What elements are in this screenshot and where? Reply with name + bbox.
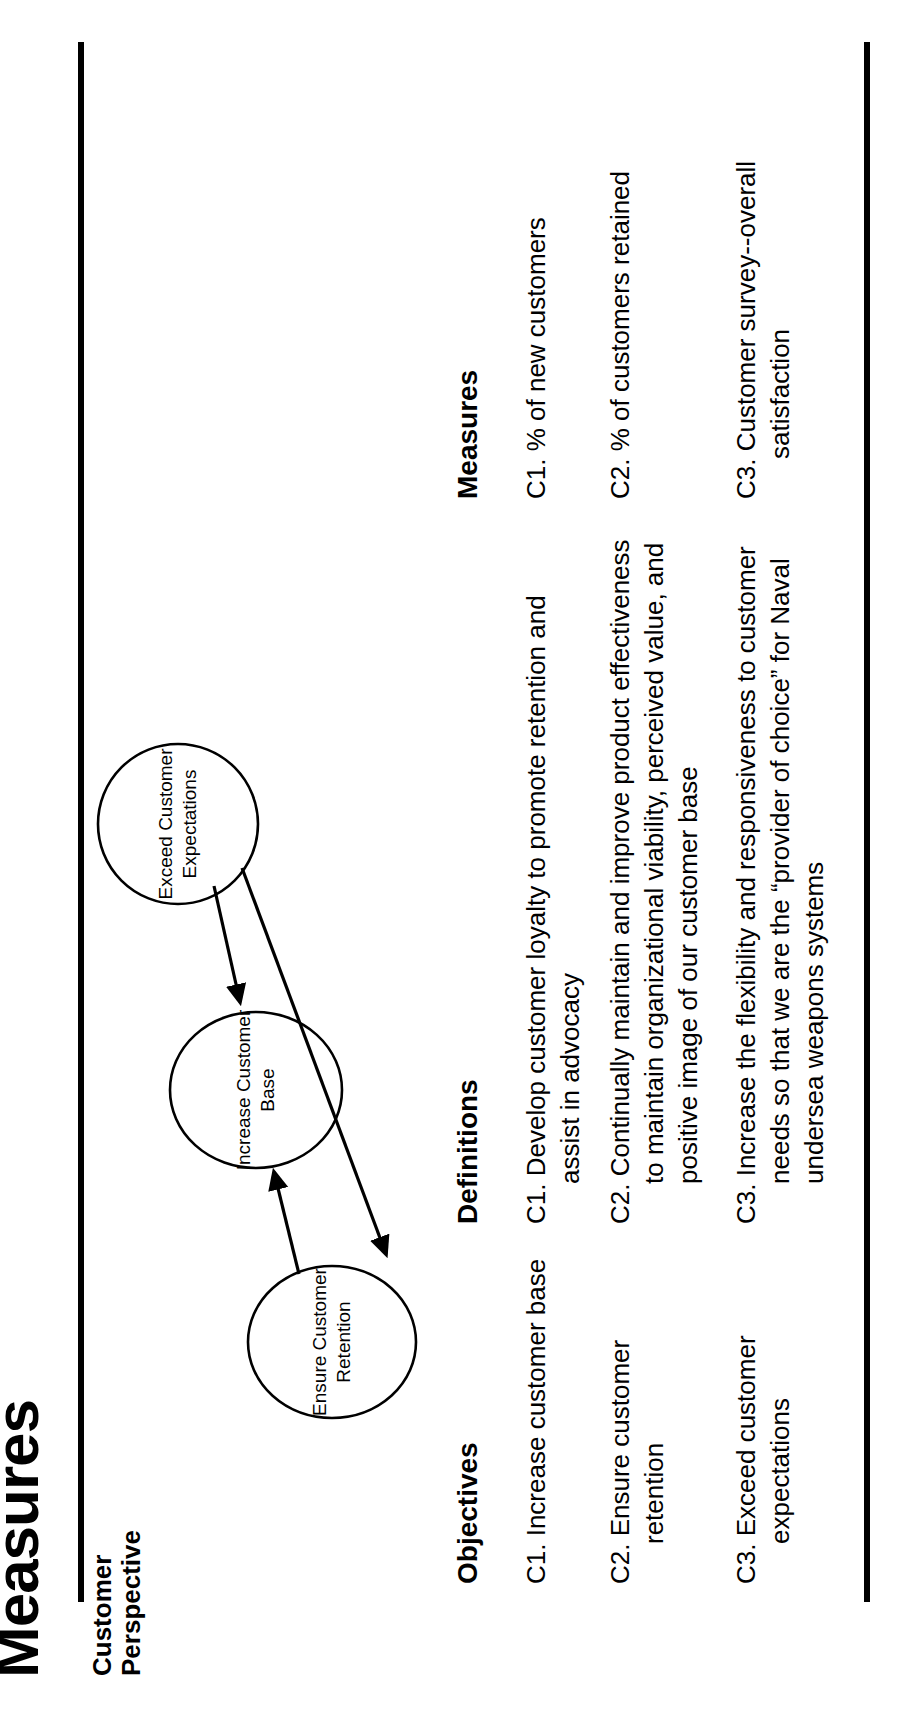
diagram-arrow-expectations-to-base xyxy=(214,886,240,1002)
definition-text: C3. Increase the flexibility and respons… xyxy=(730,534,831,1224)
measure-text: C1. % of new customers xyxy=(520,59,554,499)
table-row-measure: C3. Customer survey--overall satisfactio… xyxy=(730,59,798,499)
measure-text: C2. % of customers retained xyxy=(604,59,638,499)
objective-text: C2. Ensure customer retention xyxy=(604,1254,672,1584)
diagram-node-label-line1: Ensure Customer xyxy=(309,1267,330,1416)
diagram-arrow-retention-to-base xyxy=(274,1172,299,1274)
document-page: Measures CustomerPerspective Ensure Cust… xyxy=(0,0,898,1714)
column-header-measures: Measures xyxy=(452,370,484,499)
measure-text: C3. Customer survey--overall satisfactio… xyxy=(730,59,798,499)
definition-text: C1. Develop customer loyalty to promote … xyxy=(520,534,588,1224)
page-title: Measures xyxy=(0,1400,48,1678)
table-row-measure: C2. % of customers retained xyxy=(604,59,638,499)
table-row-definition: C2. Continually maintain and improve pro… xyxy=(604,534,705,1224)
table-row-objective: C2. Ensure customer retention xyxy=(604,1254,672,1584)
diagram-node-exceed-customer-expectations: Exceed Customer Expectations xyxy=(98,744,258,904)
header-divider xyxy=(78,42,84,1602)
table-row-objective: C3. Exceed customer expectations xyxy=(730,1254,798,1584)
footer-divider xyxy=(864,42,870,1602)
objective-text: C3. Exceed customer expectations xyxy=(730,1254,798,1584)
diagram-node-label-line2: Retention xyxy=(333,1301,354,1382)
strategy-map-diagram: Ensure Customer Retention Increase Custo… xyxy=(96,634,426,1434)
table-row-objective: C1. Increase customer base xyxy=(520,1254,554,1584)
column-header-definitions: Definitions xyxy=(452,1079,484,1224)
diagram-node-label-line2: Expectations xyxy=(179,770,200,879)
diagram-node-label-line1: Exceed Customer xyxy=(155,748,176,900)
definition-text: C2. Continually maintain and improve pro… xyxy=(604,534,705,1224)
rotated-page-stage: Measures CustomerPerspective Ensure Cust… xyxy=(0,0,898,1714)
diagram-node-label-line1: Increase Customer xyxy=(233,1009,254,1170)
column-header-objectives: Objectives xyxy=(452,1442,484,1584)
table-row-definition: C1. Develop customer loyalty to promote … xyxy=(520,534,588,1224)
table-row-definition: C3. Increase the flexibility and respons… xyxy=(730,534,831,1224)
diagram-node-increase-customer-base: Increase Customer Base xyxy=(170,1009,342,1170)
diagram-node-ensure-customer-retention: Ensure Customer Retention xyxy=(248,1266,416,1418)
table-row-measure: C1. % of new customers xyxy=(520,59,554,499)
objective-text: C1. Increase customer base xyxy=(520,1254,554,1584)
perspective-label: CustomerPerspective xyxy=(88,1416,146,1676)
diagram-node-label-line2: Base xyxy=(257,1068,278,1111)
